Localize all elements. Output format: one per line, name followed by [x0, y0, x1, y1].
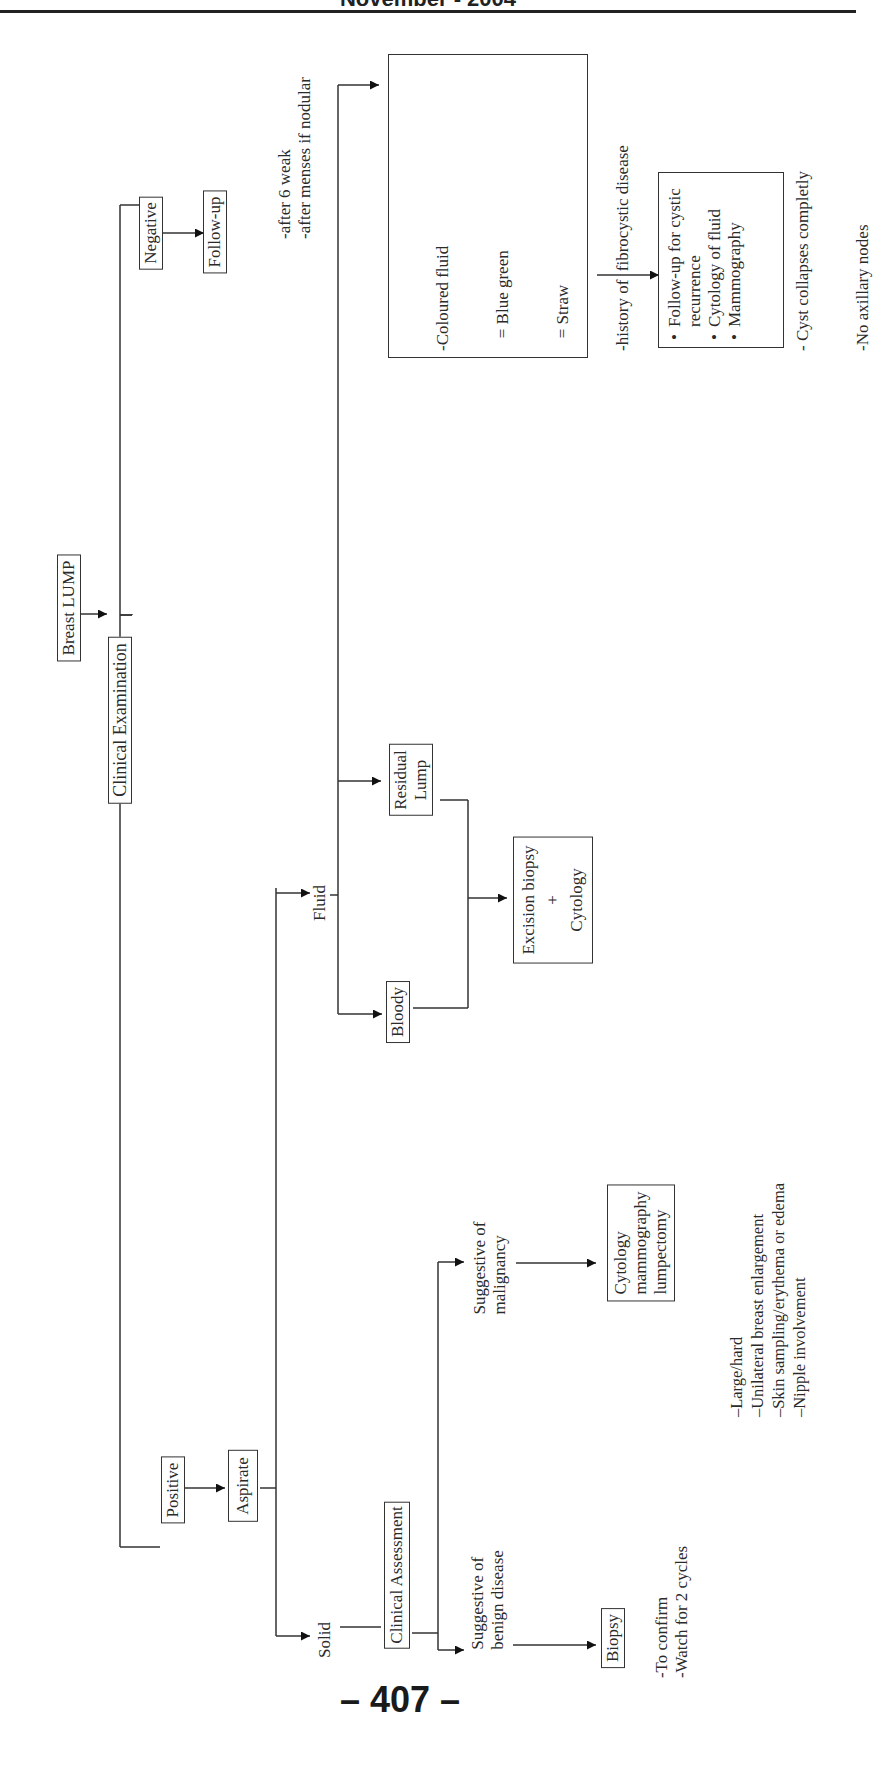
follow-up-notes: -after 6 weak -after menses if nodular [275, 77, 315, 239]
benign-line: Suggestive of [468, 1550, 488, 1650]
action-line: lumpectomy [651, 1192, 671, 1295]
node-fluid: Fluid [310, 885, 330, 921]
followup-bullets: Follow-up for cystic recurrence Cytology… [665, 179, 745, 341]
node-malignancy-action: Cytology mammography lumpectomy [607, 1185, 675, 1302]
criteria-line: -history of fibrocystic disease [613, 61, 633, 351]
residual-line: Residual [391, 750, 411, 810]
action-line: mammography [631, 1192, 651, 1295]
node-clinical-examination: Clinical Examination [108, 636, 132, 803]
node-clinical-assessment: Clinical Assessment [384, 1501, 410, 1648]
node-aspirate: Aspirate [228, 1450, 258, 1522]
node-excision-biopsy: Excision biopsy + Cytology [513, 836, 593, 963]
node-positive: Positive [161, 1457, 185, 1524]
excision-line: Excision biopsy [517, 845, 541, 954]
sign-line: –Unilateral breast enlargement [747, 1183, 768, 1417]
benign-line: benign disease [488, 1550, 508, 1650]
excision-line: + [541, 845, 565, 954]
node-followup-list: Follow-up for cystic recurrence Cytology… [658, 172, 784, 348]
note-line: -after 6 weak [275, 77, 295, 239]
biopsy-notes: -To confirm -Watch for 2 cycles [652, 1546, 692, 1678]
bullet-item: Cytology of fluid [705, 179, 725, 327]
node-residual-lump: Residual Lump [389, 744, 433, 816]
page-number: – 407 – [340, 1679, 460, 1721]
action-line: Cytology [611, 1192, 631, 1295]
sign-line: –Large/hard [726, 1183, 747, 1417]
node-follow-up: Follow-up [203, 191, 227, 274]
malignancy-signs: –Large/hard –Unilateral breast enlargeme… [726, 1183, 810, 1417]
node-fluid-criteria: -Coloured fluid = Blue green = Straw -hi… [388, 54, 588, 358]
node-suggestive-benign: Suggestive of benign disease [468, 1550, 508, 1650]
criteria-line: = Blue green [493, 61, 513, 351]
malignancy-line: malignancy [490, 1221, 510, 1314]
sign-line: –Skin sampling/erythema or edema [768, 1183, 789, 1417]
node-breast-lump: Breast LUMP [57, 555, 81, 662]
criteria-line: -No axillary nodes [853, 61, 873, 351]
excision-line: Cytology [565, 845, 589, 954]
biopsy-note-line: -To confirm [652, 1546, 672, 1678]
residual-line: Lump [411, 750, 431, 810]
node-bloody: Bloody [386, 981, 410, 1043]
node-negative: Negative [139, 196, 163, 269]
note-line: -after menses if nodular [295, 77, 315, 239]
criteria-line: = Straw [553, 61, 573, 351]
node-solid: Solid [315, 1622, 335, 1658]
criteria-line: -Coloured fluid [433, 61, 453, 351]
malignancy-line: Suggestive of [470, 1221, 490, 1314]
criteria-line: - Cyst collapses completly [793, 61, 813, 351]
sign-line: –Nipple involvement [789, 1183, 810, 1417]
bullet-item: Mammography [725, 179, 745, 327]
bullet-item: Follow-up for cystic recurrence [665, 179, 705, 327]
node-biopsy: Biopsy [601, 1608, 625, 1668]
biopsy-note-line: -Watch for 2 cycles [672, 1546, 692, 1678]
node-suggestive-malignancy: Suggestive of malignancy [470, 1221, 510, 1314]
